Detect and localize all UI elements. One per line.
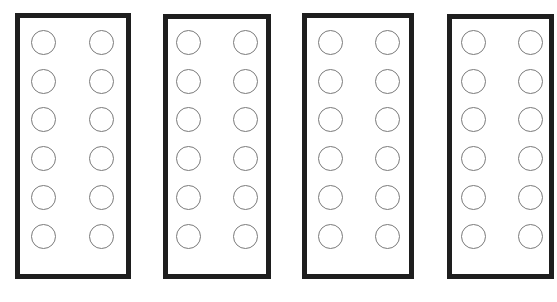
circle-icon — [31, 224, 56, 249]
circle-icon — [518, 107, 543, 132]
circle-icon — [518, 146, 543, 171]
circle-icon — [318, 185, 343, 210]
circle-icon — [461, 146, 486, 171]
circle-icon — [518, 69, 543, 94]
circle-icon — [318, 69, 343, 94]
circle-icon — [176, 69, 201, 94]
circle-icon — [176, 224, 201, 249]
circle-icon — [31, 107, 56, 132]
circle-icon — [176, 30, 201, 55]
circle-icon — [89, 69, 114, 94]
circle-icon — [375, 224, 400, 249]
circle-icon — [89, 107, 114, 132]
circle-icon — [375, 30, 400, 55]
circle-icon — [318, 224, 343, 249]
circle-icon — [375, 146, 400, 171]
circle-icon — [89, 30, 114, 55]
circle-icon — [375, 69, 400, 94]
circle-icon — [518, 185, 543, 210]
circle-icon — [461, 185, 486, 210]
circle-icon — [461, 224, 486, 249]
circle-icon — [31, 146, 56, 171]
circle-icon — [233, 107, 258, 132]
circle-icon — [318, 107, 343, 132]
circle-icon — [176, 146, 201, 171]
circle-icon — [518, 30, 543, 55]
circle-icon — [233, 30, 258, 55]
circle-icon — [89, 224, 114, 249]
circle-icon — [233, 69, 258, 94]
circle-icon — [233, 146, 258, 171]
circle-icon — [89, 185, 114, 210]
circle-icon — [31, 30, 56, 55]
circle-icon — [518, 224, 543, 249]
circle-icon — [176, 185, 201, 210]
circle-icon — [461, 30, 486, 55]
circle-icon — [375, 107, 400, 132]
circle-icon — [318, 30, 343, 55]
circle-icon — [31, 185, 56, 210]
circle-icon — [233, 224, 258, 249]
circle-icon — [461, 69, 486, 94]
circle-icon — [461, 107, 486, 132]
circle-icon — [318, 146, 343, 171]
circle-icon — [233, 185, 258, 210]
circle-icon — [176, 107, 201, 132]
circle-icon — [375, 185, 400, 210]
circle-icon — [89, 146, 114, 171]
circle-icon — [31, 69, 56, 94]
